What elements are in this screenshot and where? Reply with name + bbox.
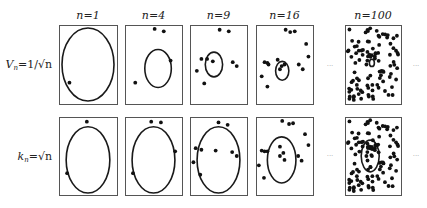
sample-point (395, 34, 399, 38)
sample-point (283, 63, 287, 67)
sample-point (385, 36, 389, 40)
sample-point (357, 58, 361, 62)
panel-frame (191, 26, 248, 105)
sample-point (377, 35, 381, 39)
sample-point (296, 154, 300, 158)
sample-point (267, 63, 271, 67)
panel-row2-n1 (60, 118, 118, 196)
sample-point (380, 69, 384, 73)
sample-point (377, 59, 381, 63)
sample-point (367, 40, 371, 44)
sample-point (367, 95, 371, 99)
sample-point (300, 159, 304, 163)
sample-point (366, 159, 370, 163)
sample-point (369, 146, 373, 150)
sample-point (350, 131, 354, 135)
sample-point (291, 121, 295, 125)
sample-point (375, 144, 379, 148)
sample-point (68, 81, 72, 85)
ellipsis-row1-right: ··· (413, 62, 420, 70)
sample-point (366, 177, 370, 181)
sample-point (374, 51, 378, 55)
sample-point (366, 50, 370, 54)
sample-point (284, 28, 288, 32)
sample-point (288, 30, 292, 34)
sample-point (361, 53, 365, 57)
row-label-k: kn=√n (18, 150, 53, 164)
sample-point (370, 83, 374, 87)
sample-point (366, 142, 370, 146)
sample-point (346, 141, 350, 145)
sample-point (357, 92, 361, 96)
sample-point (383, 89, 387, 93)
sample-point (200, 57, 204, 61)
sample-point (350, 172, 354, 176)
sample-point (85, 120, 89, 124)
panel-row1-n16 (257, 26, 314, 105)
sample-point (368, 74, 372, 78)
sample-point (366, 145, 370, 149)
sample-point (353, 45, 357, 49)
sample-point (226, 123, 230, 127)
sample-point (260, 74, 264, 78)
sample-point (262, 176, 266, 180)
sample-point (381, 171, 385, 175)
sample-point (348, 97, 352, 101)
sample-point (349, 55, 353, 59)
panel-row1-n1 (60, 26, 118, 105)
panel-frame (126, 26, 183, 105)
sample-point (205, 57, 209, 61)
sample-point (353, 70, 357, 74)
sample-point (355, 83, 359, 87)
panel-row2-n9 (191, 118, 248, 196)
sample-point (365, 154, 369, 158)
column-label-100: n=100 (354, 9, 391, 22)
sample-point (162, 29, 166, 33)
panel-row1-n100 (346, 26, 402, 105)
sample-point (370, 154, 374, 158)
sample-point (392, 60, 396, 64)
sample-point (355, 76, 359, 80)
sample-point (307, 55, 311, 59)
sample-point (355, 168, 359, 172)
sample-point (350, 39, 354, 43)
sample-point (65, 171, 69, 175)
sample-point (348, 120, 352, 124)
sample-point (353, 61, 357, 65)
sample-point (192, 160, 196, 164)
sample-point (200, 148, 204, 152)
panel-frame (60, 118, 118, 196)
sample-point (194, 146, 198, 150)
sample-point (307, 143, 311, 147)
sample-point (385, 127, 389, 131)
panel-row2-n100 (346, 118, 402, 196)
sample-point (357, 150, 361, 154)
sample-point (355, 87, 359, 91)
sample-point (348, 28, 352, 32)
sample-point (377, 127, 381, 131)
sample-point (375, 174, 379, 178)
sample-point (381, 79, 385, 83)
sample-point (380, 160, 384, 164)
sample-point (218, 28, 222, 32)
sample-point (195, 69, 199, 73)
sample-point (365, 63, 369, 67)
column-label-4: n=4 (142, 9, 165, 22)
sample-point (387, 93, 391, 97)
sample-point (301, 67, 305, 71)
sample-point (349, 88, 353, 92)
sample-point (227, 29, 231, 33)
sample-point (365, 59, 369, 63)
ellipsis-row2-left: ··· (327, 152, 334, 160)
column-label-1: n=1 (76, 9, 99, 22)
figure-canvas: n=1n=4n=9n=16n=100 Vn=1/√n kn=√n ··· ···… (0, 0, 427, 208)
sample-point (371, 180, 375, 184)
sample-point (388, 75, 392, 79)
sample-point (371, 88, 375, 92)
panel-frame (257, 118, 314, 196)
sample-point (390, 176, 394, 180)
sample-point (353, 162, 357, 166)
sample-point (133, 81, 137, 85)
sample-point (377, 135, 381, 139)
sample-point (375, 83, 379, 87)
